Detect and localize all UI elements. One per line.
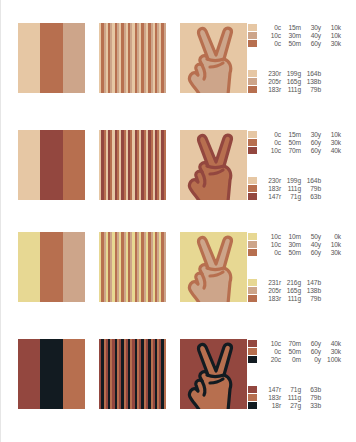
color-legend: 0c 15m 30y 10k 10c 30m 40y 10k 0c 50m 60…: [248, 23, 356, 93]
rgb-legend-row: 230r 199g 164b: [248, 176, 321, 184]
color-band: [63, 130, 85, 200]
rgb-legend-row: 205r 165g 138b: [248, 286, 321, 294]
yellow-value: 60y: [301, 139, 321, 146]
blue-value: 147b: [301, 279, 321, 286]
color-swatch: [248, 40, 257, 47]
peace-hand-panel: [180, 339, 247, 409]
cmyk-legend-row: 20c 0m 0y 100k: [248, 355, 341, 363]
black-value: 30k: [321, 40, 341, 47]
cyan-value: 0c: [261, 249, 281, 256]
color-swatch: [248, 193, 257, 200]
green-value: 165g: [281, 78, 301, 85]
color-swatch: [248, 70, 257, 77]
blue-value: 138b: [301, 78, 321, 85]
magenta-value: 30m: [281, 241, 301, 248]
green-value: 111g: [281, 185, 301, 192]
magenta-value: 50m: [281, 139, 301, 146]
green-value: 71g: [281, 193, 301, 200]
color-band: [40, 23, 62, 93]
magenta-value: 0m: [281, 356, 301, 363]
cmyk-legend-row: 10c 30m 40y 10k: [248, 31, 341, 39]
yellow-value: 60y: [301, 348, 321, 355]
rgb-legend-row: 183r 111g 79b: [248, 393, 321, 401]
green-value: 216g: [281, 279, 301, 286]
color-band: [18, 23, 40, 93]
peace-hand-icon: [180, 23, 247, 93]
color-legend: 10c 70m 60y 40k 0c 50m 60y 30k 20c 0m 0y…: [248, 339, 356, 409]
yellow-value: 40y: [301, 241, 321, 248]
yellow-value: 60y: [301, 340, 321, 347]
cyan-value: 20c: [261, 356, 281, 363]
color-swatch: [248, 131, 257, 138]
cyan-value: 0c: [261, 131, 281, 138]
color-legend: 0c 15m 30y 10k 0c 50m 60y 30k 10c 70m 60…: [248, 130, 356, 200]
cmyk-legend-row: 10c 30m 40y 10k: [248, 240, 341, 248]
red-value: 183r: [261, 185, 281, 192]
red-value: 147r: [261, 193, 281, 200]
black-value: 10k: [321, 241, 341, 248]
peace-hand-icon: [180, 130, 247, 200]
color-legend: 10c 10m 50y 0k 10c 30m 40y 10k 0c 50m 60…: [248, 232, 356, 302]
color-swatch: [248, 386, 257, 393]
blue-value: 138b: [301, 287, 321, 294]
black-value: 30k: [321, 249, 341, 256]
cmyk-legend-row: 0c 15m 30y 10k: [248, 130, 341, 138]
stripe-swatch-panel: [99, 232, 166, 302]
color-band: [18, 339, 40, 409]
color-swatch: [248, 348, 257, 355]
green-value: 111g: [281, 295, 301, 302]
color-swatch: [248, 249, 257, 256]
blue-value: 63b: [301, 386, 321, 393]
black-value: 0k: [321, 233, 341, 240]
peace-hand-panel: [180, 130, 247, 200]
stripe-swatch-panel: [99, 23, 166, 93]
green-value: 199g: [281, 70, 301, 77]
magenta-value: 30m: [281, 32, 301, 39]
color-swatch: [248, 185, 257, 192]
cyan-value: 10c: [261, 32, 281, 39]
cmyk-legend-row: 10c 70m 60y 40k: [248, 339, 341, 347]
red-value: 230r: [261, 177, 281, 184]
blue-value: 33b: [301, 402, 321, 409]
blue-value: 79b: [301, 185, 321, 192]
blue-value: 79b: [301, 394, 321, 401]
cyan-value: 0c: [261, 139, 281, 146]
rgb-legend-row: 147r 71g 63b: [248, 385, 321, 393]
blue-value: 79b: [301, 295, 321, 302]
color-swatch: [248, 86, 257, 93]
color-swatch: [248, 356, 257, 363]
magenta-value: 50m: [281, 40, 301, 47]
blue-value: 79b: [301, 86, 321, 93]
cmyk-legend-row: 0c 50m 60y 30k: [248, 138, 341, 146]
color-band: [18, 232, 40, 302]
color-swatch: [248, 295, 257, 302]
stripe-swatch-panel: [99, 339, 166, 409]
black-value: 10k: [321, 32, 341, 39]
band-swatch-panel: [18, 232, 85, 302]
red-value: 230r: [261, 70, 281, 77]
cmyk-legend-row: 0c 50m 60y 30k: [248, 39, 341, 47]
red-value: 183r: [261, 394, 281, 401]
cyan-value: 10c: [261, 340, 281, 347]
cyan-value: 0c: [261, 40, 281, 47]
color-band: [40, 339, 62, 409]
red-value: 183r: [261, 86, 281, 93]
cmyk-legend-row: 10c 10m 50y 0k: [248, 232, 341, 240]
blue-value: 63b: [301, 193, 321, 200]
yellow-value: 30y: [301, 24, 321, 31]
magenta-value: 50m: [281, 348, 301, 355]
yellow-value: 60y: [301, 147, 321, 154]
palette-row-4: 10c 70m 60y 40k 0c 50m 60y 30k 20c 0m 0y…: [0, 339, 356, 409]
magenta-value: 10m: [281, 233, 301, 240]
green-value: 111g: [281, 394, 301, 401]
color-swatch: [248, 233, 257, 240]
palette-row-3: 10c 10m 50y 0k 10c 30m 40y 10k 0c 50m 60…: [0, 232, 356, 302]
color-swatch: [248, 340, 257, 347]
band-swatch-panel: [18, 339, 85, 409]
black-value: 10k: [321, 24, 341, 31]
blue-value: 164b: [301, 70, 321, 77]
color-swatch: [248, 287, 257, 294]
rgb-legend-row: 205r 165g 138b: [248, 77, 321, 85]
green-value: 165g: [281, 287, 301, 294]
stripe-swatch-panel: [99, 130, 166, 200]
